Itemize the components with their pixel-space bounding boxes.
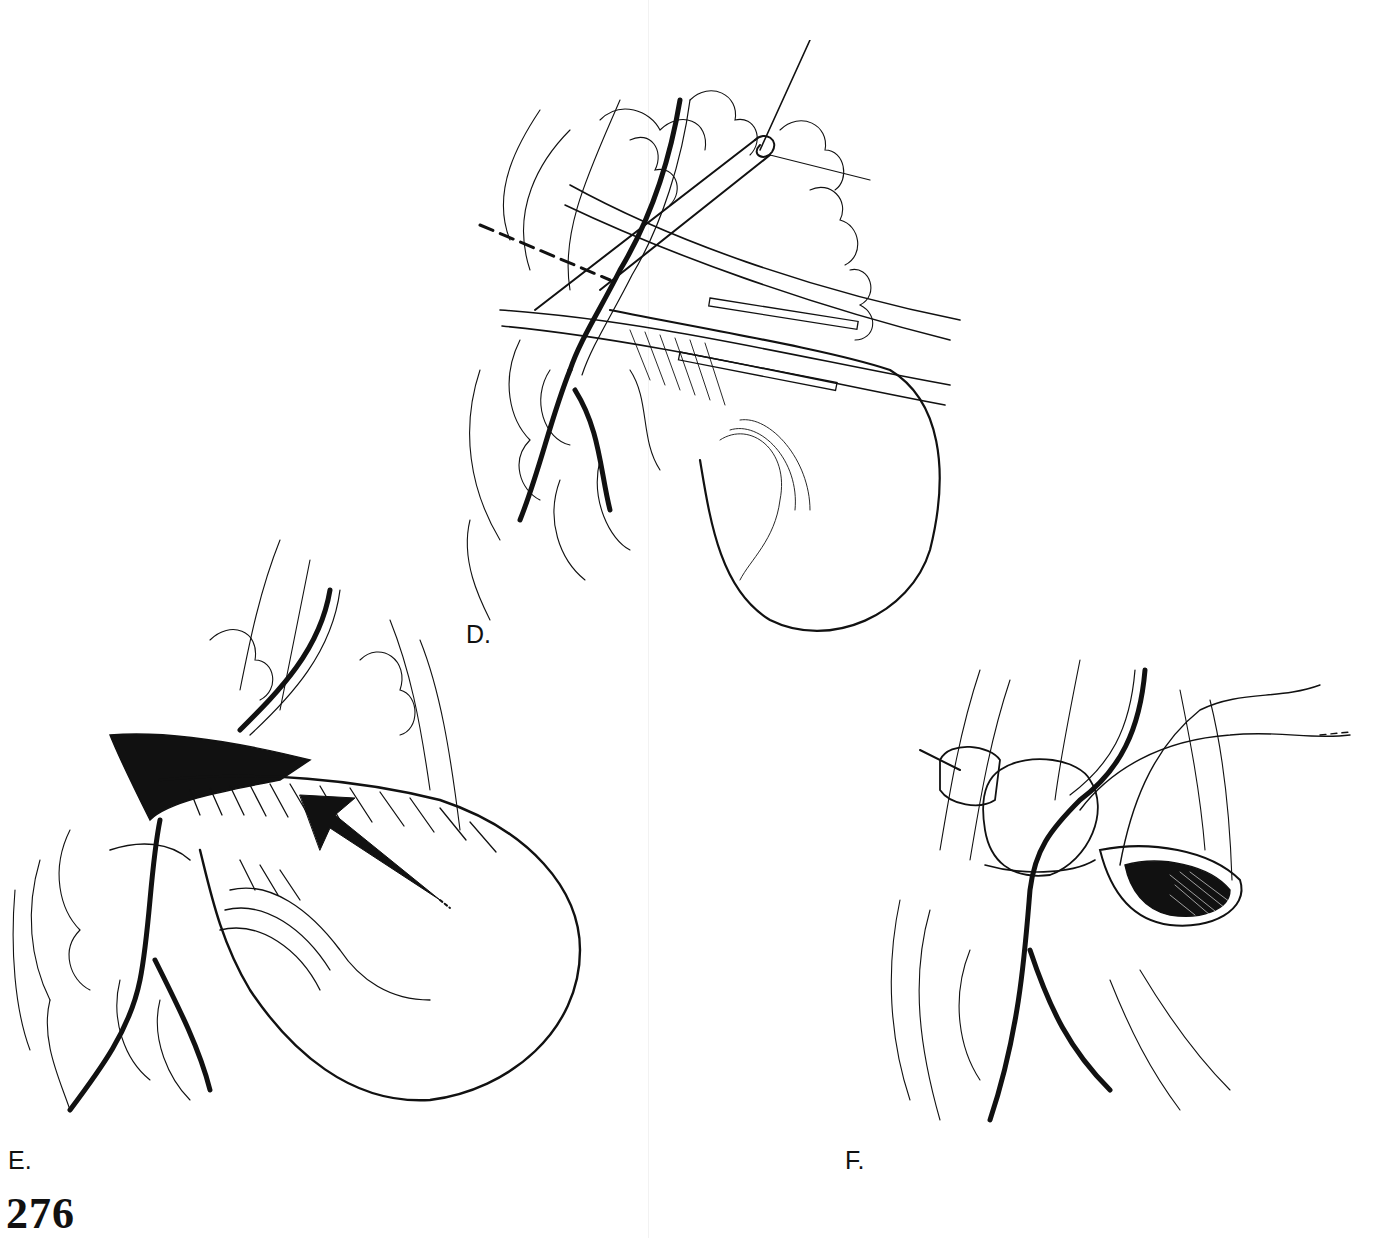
figure-e-label: E. <box>8 1146 32 1175</box>
figure-e-illustration <box>10 530 610 1130</box>
page-number: 276 <box>6 1188 75 1238</box>
figure-f-illustration <box>880 650 1360 1140</box>
figure-f-label: F. <box>845 1146 864 1175</box>
